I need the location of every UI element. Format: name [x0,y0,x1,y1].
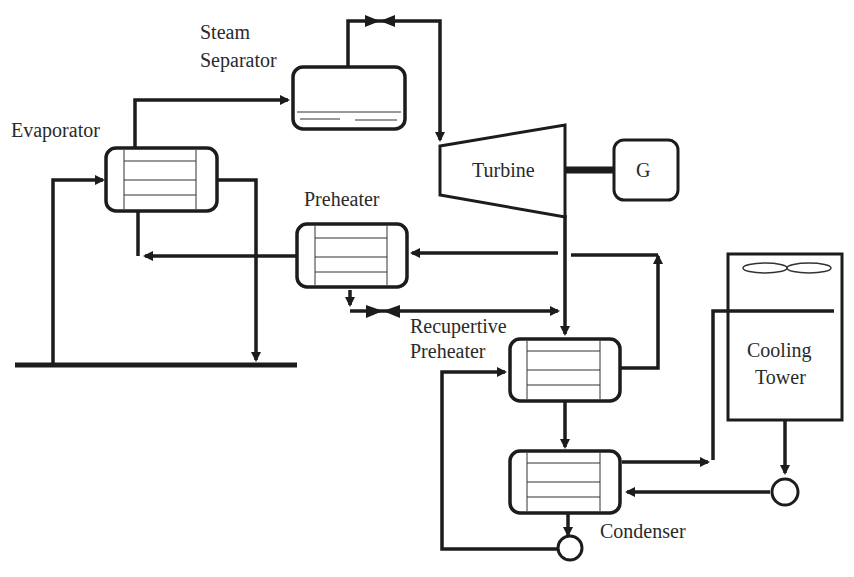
throttle-valve-icon [365,15,395,27]
condenser [510,451,620,513]
label-recuperative-preheater: Preheater [410,340,486,362]
label-condenser: Condenser [600,520,686,542]
label-tower: Tower [755,366,806,388]
pipe-recuperator-outlet [620,256,658,368]
label-steam: Steam [200,21,250,43]
process-flow-diagram: Steam Separator Evaporator Turbine G Pre… [0,0,854,577]
cooling-water-pump-icon [772,479,798,505]
label-generator: G [636,159,650,181]
label-turbine: Turbine [472,159,535,181]
pipe-evaporator-to-reinjection [218,180,256,360]
label-evaporator: Evaporator [11,119,100,142]
preheater [297,224,407,287]
pipe-evaporator-to-separator [135,100,288,148]
steam-separator [293,67,405,129]
label-separator: Separator [200,49,277,72]
evaporator [106,148,217,211]
recuperative-preheater [510,339,620,401]
condensate-pump-icon [558,536,582,560]
cooling-tower [728,254,842,420]
label-preheater: Preheater [304,188,380,210]
fan-icon [743,263,831,273]
label-cooling: Cooling [747,339,811,362]
label-recuperative: Recupertive [410,315,507,338]
pipe-brine-to-evaporator [53,180,103,365]
